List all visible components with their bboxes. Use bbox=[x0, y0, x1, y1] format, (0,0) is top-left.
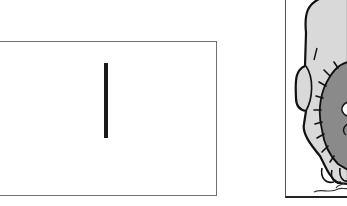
comic-panel-left bbox=[0, 41, 217, 196]
vertical-bar bbox=[104, 63, 108, 138]
comic-panel-right bbox=[285, 0, 347, 198]
lion-illustration bbox=[286, 0, 347, 198]
